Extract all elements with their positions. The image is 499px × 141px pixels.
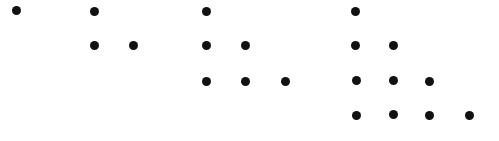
dot xyxy=(241,77,250,86)
dot xyxy=(425,77,434,86)
dot xyxy=(425,111,434,120)
dot xyxy=(12,6,21,15)
triangular-numbers-diagram xyxy=(0,0,499,141)
dot xyxy=(351,41,360,50)
dot xyxy=(389,41,398,50)
dot xyxy=(351,7,360,16)
dot xyxy=(389,76,398,85)
dot xyxy=(352,111,361,120)
dot xyxy=(241,41,250,50)
dot xyxy=(202,7,211,16)
dot xyxy=(90,7,99,16)
dot xyxy=(352,76,361,85)
dot xyxy=(465,111,474,120)
dot xyxy=(90,41,99,50)
dot xyxy=(281,77,290,86)
dot xyxy=(202,41,211,50)
dot xyxy=(389,110,398,119)
dot xyxy=(129,41,138,50)
dot xyxy=(202,77,211,86)
